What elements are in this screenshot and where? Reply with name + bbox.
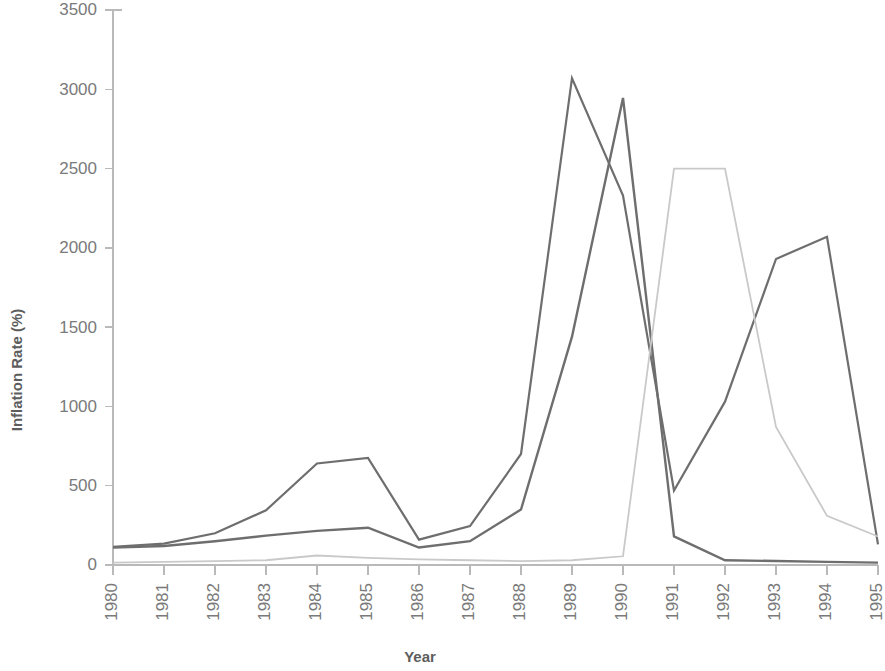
x-tick-label: 1992 bbox=[714, 583, 733, 621]
x-tick-label: 1986 bbox=[408, 583, 427, 621]
x-axis-ticks bbox=[113, 565, 878, 575]
x-tick-label: 1983 bbox=[255, 583, 274, 621]
series-line-series-2 bbox=[113, 98, 878, 563]
plot-area: 0500100015002000250030003500 19801981198… bbox=[59, 0, 885, 620]
axis-lines bbox=[113, 10, 878, 565]
x-tick-label: 1991 bbox=[663, 583, 682, 621]
x-tick-label: 1982 bbox=[204, 583, 223, 621]
series-line-series-1 bbox=[113, 78, 878, 547]
x-tick-label: 1994 bbox=[816, 583, 835, 621]
y-tick-label: 3500 bbox=[59, 0, 97, 19]
y-tick-label: 3000 bbox=[59, 80, 97, 99]
chart-page: 0500100015002000250030003500 19801981198… bbox=[0, 0, 885, 671]
x-tick-label: 1981 bbox=[153, 583, 172, 621]
x-tick-label: 1995 bbox=[867, 583, 885, 621]
y-tick-label: 1500 bbox=[59, 318, 97, 337]
x-tick-label: 1988 bbox=[510, 583, 529, 621]
x-axis-tick-labels: 1980198119821983198419851986198719881989… bbox=[102, 583, 885, 621]
y-tick-label: 0 bbox=[88, 555, 97, 574]
y-tick-label: 500 bbox=[69, 476, 97, 495]
y-axis-title: Inflation Rate (%) bbox=[8, 309, 25, 432]
x-tick-label: 1984 bbox=[306, 583, 325, 621]
x-tick-label: 1980 bbox=[102, 583, 121, 621]
x-tick-label: 1985 bbox=[357, 583, 376, 621]
y-tick-label: 2000 bbox=[59, 238, 97, 257]
x-tick-label: 1990 bbox=[612, 583, 631, 621]
x-tick-label: 1993 bbox=[765, 583, 784, 621]
data-series-group bbox=[113, 78, 878, 562]
y-tick-label: 2500 bbox=[59, 159, 97, 178]
x-tick-label: 1987 bbox=[459, 583, 478, 621]
y-axis-tick-labels: 0500100015002000250030003500 bbox=[59, 0, 97, 574]
x-tick-label: 1989 bbox=[561, 583, 580, 621]
line-chart: 0500100015002000250030003500 19801981198… bbox=[0, 0, 885, 671]
series-line-series-3 bbox=[113, 169, 878, 563]
y-tick-label: 1000 bbox=[59, 397, 97, 416]
y-axis-ticks bbox=[105, 10, 113, 565]
x-axis-title: Year bbox=[404, 648, 436, 665]
